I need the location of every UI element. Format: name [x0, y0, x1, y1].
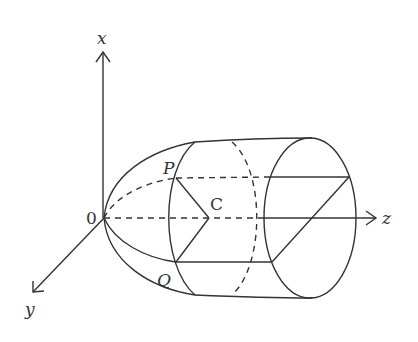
x-axis-label: x [97, 28, 107, 48]
cross-section-back-arc [232, 142, 257, 295]
y-axis-label: y [24, 299, 35, 319]
point-Q-label: Q [157, 270, 171, 290]
y-axis [33, 218, 104, 292]
cylinder-bottom-edge [195, 295, 312, 298]
cylinder-top-edge [195, 138, 312, 142]
point-C-label: C [210, 194, 223, 214]
paraboloid-bottom-edge [104, 218, 195, 295]
paraboloid-top-edge [104, 142, 195, 218]
z-axis-label: z [381, 208, 392, 228]
origin-label: 0 [86, 208, 97, 228]
segment-CQ [176, 218, 209, 262]
solid-diagram: x y z 0 P Q C [0, 0, 418, 342]
point-P-label: P [162, 158, 175, 178]
paraboloid-hidden-curve-to-P [104, 178, 176, 218]
paraboloid-curve-to-Q [104, 218, 176, 262]
diagram-canvas: x y z 0 P Q C [0, 0, 418, 342]
end-face-diagonal [272, 177, 349, 262]
segment-PC [176, 178, 209, 218]
line-from-P-hidden [176, 177, 271, 178]
